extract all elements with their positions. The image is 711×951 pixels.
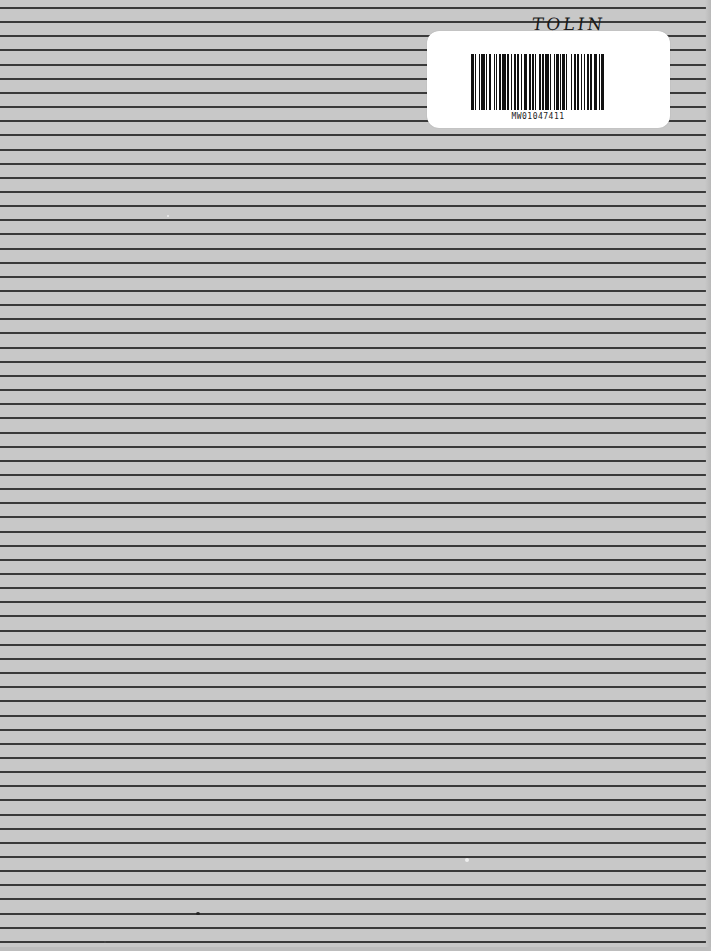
ruled-line xyxy=(0,630,706,632)
barcode-bar xyxy=(601,54,604,110)
ruled-line xyxy=(0,403,706,405)
ruled-line xyxy=(0,332,706,334)
ruled-line xyxy=(0,729,706,731)
ruled-line xyxy=(0,672,706,674)
ruled-line xyxy=(0,799,706,801)
ruled-line xyxy=(0,304,706,306)
ruled-line xyxy=(0,163,706,165)
ruled-line xyxy=(0,290,706,292)
ruled-line xyxy=(0,686,706,688)
barcode-label: MW01047411 xyxy=(427,31,670,128)
ruled-line xyxy=(0,927,706,929)
ruled-line xyxy=(0,375,706,377)
ruled-line xyxy=(0,248,706,250)
ruled-line xyxy=(0,573,706,575)
ruled-line xyxy=(0,318,706,320)
ruled-line xyxy=(0,7,706,9)
ruled-line xyxy=(0,842,706,844)
ruled-line xyxy=(0,516,706,518)
ruled-line xyxy=(0,219,706,221)
ruled-line xyxy=(0,884,706,886)
ruled-line xyxy=(0,715,706,717)
ruled-line xyxy=(0,828,706,830)
ruled-line xyxy=(0,644,706,646)
ruled-line xyxy=(0,205,706,207)
ruled-line xyxy=(0,870,706,872)
paper-speck xyxy=(196,912,200,915)
ruled-line xyxy=(0,233,706,235)
ruled-line xyxy=(0,757,706,759)
ruled-line xyxy=(0,134,706,136)
ruled-line xyxy=(0,913,706,915)
ruled-line xyxy=(0,785,706,787)
ruled-line xyxy=(0,361,706,363)
paper-speck xyxy=(167,215,169,217)
ruled-line xyxy=(0,601,706,603)
paper-speck xyxy=(465,858,469,862)
ruled-line xyxy=(0,545,706,547)
notebook-cover: TOLIN MW01047411 xyxy=(0,0,711,951)
ruled-line xyxy=(0,814,706,816)
paper-speck xyxy=(104,941,106,943)
ruled-line xyxy=(0,474,706,476)
ruled-lines xyxy=(0,0,711,951)
ruled-line xyxy=(0,531,706,533)
bottom-page-edge xyxy=(0,947,711,951)
ruled-line xyxy=(0,559,706,561)
ruled-line xyxy=(0,587,706,589)
barcode-graphic xyxy=(471,54,604,110)
ruled-line xyxy=(0,700,706,702)
ruled-line xyxy=(0,658,706,660)
ruled-line xyxy=(0,347,706,349)
ruled-line xyxy=(0,856,706,858)
ruled-line xyxy=(0,276,706,278)
ruled-line xyxy=(0,615,706,617)
ruled-line xyxy=(0,771,706,773)
ruled-line xyxy=(0,191,706,193)
ruled-line xyxy=(0,389,706,391)
ruled-line xyxy=(0,898,706,900)
ruled-line xyxy=(0,417,706,419)
ruled-line xyxy=(0,177,706,179)
ruled-line xyxy=(0,502,706,504)
barcode-id-text: MW01047411 xyxy=(427,112,649,121)
ruled-line xyxy=(0,446,706,448)
ruled-line xyxy=(0,262,706,264)
ruled-line xyxy=(0,432,706,434)
ruled-line xyxy=(0,149,706,151)
ruled-line xyxy=(0,488,706,490)
right-page-edge xyxy=(705,0,711,951)
ruled-line xyxy=(0,743,706,745)
ruled-line xyxy=(0,460,706,462)
